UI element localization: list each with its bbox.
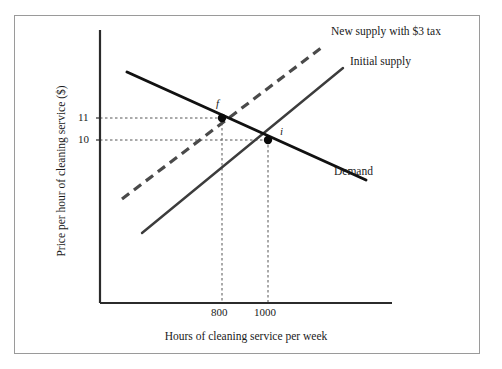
equilibrium-point-i-label: i (280, 126, 283, 137)
y-tick-label-10: 10 (78, 134, 89, 145)
y-axis-title: Price per hour of cleaning service ($) (55, 71, 67, 271)
guide-lines (100, 118, 268, 303)
new-supply-curve-label: New supply with $3 tax (331, 26, 441, 38)
new-supply-curve (122, 45, 325, 199)
equilibrium-point-f-label: f (216, 98, 219, 109)
x-axis-title: Hours of cleaning service per week (100, 330, 392, 342)
y-tick-label-11: 11 (78, 112, 89, 123)
initial-supply-curve-label: Initial supply (350, 56, 411, 68)
x-tick-label-1000: 1000 (254, 307, 276, 318)
series-new-supply (122, 45, 325, 199)
equilibrium-point-f-marker (218, 114, 226, 122)
supply-demand-figure: 11 10 800 1000 f i New supply with $3 ta… (0, 0, 502, 369)
chart-canvas (0, 0, 502, 369)
demand-curve (127, 72, 366, 180)
series-demand (127, 72, 366, 180)
demand-curve-label: Demand (334, 166, 373, 178)
x-tick-label-800: 800 (211, 307, 228, 318)
equilibrium-point-i-marker (264, 136, 272, 144)
